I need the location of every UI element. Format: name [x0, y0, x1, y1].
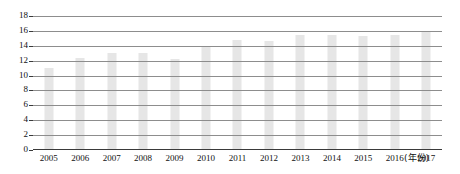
y-axis-tick-label: 10 — [2, 71, 28, 80]
bar-slot — [33, 16, 64, 150]
bar — [76, 58, 85, 150]
x-axis-tick-label: 2006 — [71, 152, 89, 164]
y-axis-tick-mark — [29, 120, 33, 121]
x-axis-line — [33, 149, 442, 150]
y-axis-tick-label: 12 — [2, 56, 28, 65]
y-axis-tick-mark — [29, 150, 33, 151]
y-axis-tick-mark — [29, 46, 33, 47]
x-axis-tick-labels: 2005200620072008200920102011201220132014… — [33, 152, 442, 166]
bar-slot — [96, 16, 127, 150]
bar-slot — [190, 16, 221, 150]
x-axis-title: (年份) — [404, 152, 429, 164]
gridline — [33, 16, 442, 17]
y-axis-tick-label: 2 — [2, 130, 28, 139]
bar-slot — [316, 16, 347, 150]
bar — [44, 68, 53, 150]
plot-area — [33, 16, 442, 150]
x-axis-tick-label: 2014 — [323, 152, 341, 164]
y-axis-tick-mark — [29, 16, 33, 17]
bar-slot — [127, 16, 158, 150]
bar — [233, 40, 242, 150]
bar — [264, 41, 273, 150]
bar-slot — [348, 16, 379, 150]
y-axis-tick-mark — [29, 105, 33, 106]
x-axis-tick-label: 2007 — [103, 152, 121, 164]
bar — [327, 35, 336, 150]
y-axis-tick-mark — [29, 31, 33, 32]
x-axis-tick-label: 2015 — [354, 152, 372, 164]
x-axis-tick-label: 2012 — [260, 152, 278, 164]
bar-slot — [253, 16, 284, 150]
gridline — [33, 135, 442, 136]
y-axis-tick-label: 4 — [2, 115, 28, 124]
x-axis-tick-label: 2011 — [229, 152, 247, 164]
gridline — [33, 76, 442, 77]
y-axis-tick-label: 0 — [2, 145, 28, 154]
y-axis-tick-mark — [29, 76, 33, 77]
y-axis-tick-label: 8 — [2, 85, 28, 94]
gridline — [33, 105, 442, 106]
x-axis-tick-label: 2010 — [197, 152, 215, 164]
gridline — [33, 46, 442, 47]
gridline — [33, 90, 442, 91]
bars-layer — [33, 16, 442, 150]
y-axis-tick-mark — [29, 61, 33, 62]
y-axis-tick-label: 16 — [2, 26, 28, 35]
bar — [296, 35, 305, 150]
y-axis-tick-mark — [29, 90, 33, 91]
gridline — [33, 120, 442, 121]
y-axis-tick-label: 6 — [2, 100, 28, 109]
x-axis-tick-label: 2013 — [291, 152, 309, 164]
bar-slot — [411, 16, 442, 150]
bar-slot — [159, 16, 190, 150]
gridline — [33, 31, 442, 32]
x-axis-tick-label: 2008 — [134, 152, 152, 164]
bar — [390, 35, 399, 150]
x-axis-tick-label: 2005 — [40, 152, 58, 164]
bar-chart: 024681012141618 200520062007200820092010… — [0, 0, 460, 174]
x-axis-tick-label: 2016 — [386, 152, 404, 164]
bar-slot — [222, 16, 253, 150]
x-axis-tick-label: 2009 — [166, 152, 184, 164]
bar-slot — [285, 16, 316, 150]
bar — [359, 36, 368, 150]
gridline — [33, 61, 442, 62]
bar-slot — [379, 16, 410, 150]
bar-slot — [64, 16, 95, 150]
y-axis-tick-label: 14 — [2, 41, 28, 50]
y-axis-tick-mark — [29, 135, 33, 136]
y-axis-tick-label: 18 — [2, 11, 28, 20]
